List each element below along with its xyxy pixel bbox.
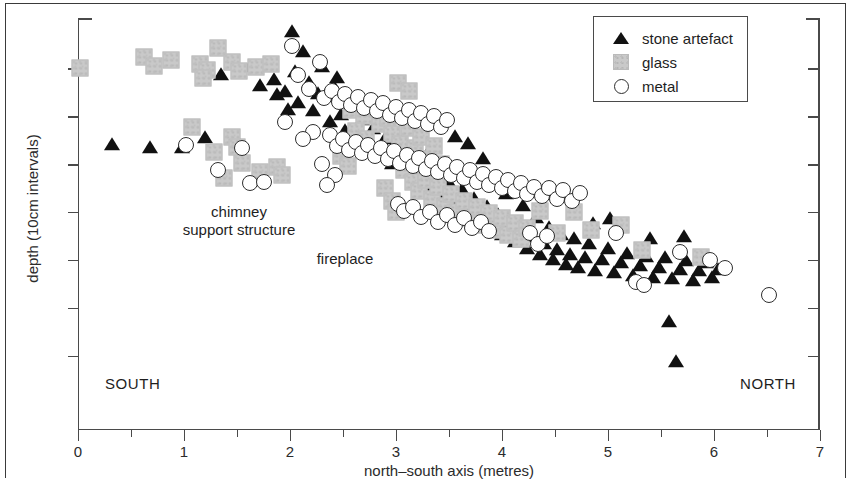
x-axis-tick [714,430,715,441]
metal-point [702,252,718,268]
y-axis-tick [68,212,79,213]
legend-label-metal: metal [642,78,679,95]
circle-marker-icon [611,79,631,94]
right-axis-tick [808,68,819,69]
annotation-chimney-support-structure: chimney support structure [183,203,296,238]
figure-container: 01234567 chimney support structure firep… [0,0,851,487]
axis-top-left-stub [78,18,92,20]
right-axis-tick [808,116,819,117]
x-axis-minor-tick [131,430,132,437]
metal-point [301,81,317,97]
x-axis-tick [78,430,79,441]
stone-artefact-point [329,70,345,83]
metal-point [256,174,272,190]
glass-point [262,55,279,72]
right-axis-tick [808,308,819,309]
stone-artefact-point [104,137,120,150]
annotation-fireplace: fireplace [317,250,374,268]
stone-artefact-point [305,104,321,117]
metal-point [312,54,328,70]
stone-artefact-point [661,314,677,327]
legend-item-stone-artefact: stone artefact [594,26,747,50]
right-axis-tick [808,212,819,213]
x-axis-tick-label: 0 [74,443,82,460]
stone-artefact-point [600,241,616,254]
stone-artefact-point [475,152,491,165]
y-axis-label: depth (10cm intervals) [24,59,41,359]
y-axis-tick [68,116,79,117]
x-axis-tick-label: 6 [710,443,718,460]
metal-point [295,131,311,147]
metal-point [210,162,226,178]
x-axis-tick [608,430,609,441]
x-axis-minor-tick [237,430,238,437]
x-axis-tick [820,430,821,441]
south-direction-label: SOUTH [105,375,161,392]
axis-right-spine [818,18,820,430]
glass-point [400,82,417,99]
x-axis-tick [184,430,185,441]
x-axis-tick [396,430,397,441]
glass-point [72,60,89,77]
right-axis-tick [808,356,819,357]
stone-artefact-point [657,251,673,264]
glass-point [184,119,201,136]
x-axis-label: north–south axis (metres) [78,462,820,479]
annotation-chimney-line2: support structure [183,221,296,239]
legend-box: stone artefact glass metal [593,16,748,102]
metal-point [439,112,455,128]
legend-item-glass: glass [594,50,747,74]
glass-point [340,157,357,174]
x-axis-tick-label: 4 [498,443,506,460]
y-axis-tick [68,308,79,309]
metal-point [572,185,588,201]
y-axis-tick [68,260,79,261]
glass-point [205,144,222,161]
glass-point [146,57,163,74]
stone-artefact-point [284,25,300,38]
metal-point [481,223,497,239]
x-axis-minor-tick [767,430,768,437]
metal-point [284,38,300,54]
metal-point [636,277,652,293]
glass-point [234,154,251,171]
metal-point [319,177,335,193]
stone-artefact-point [577,251,593,264]
north-direction-label: NORTH [740,375,796,392]
metal-point [717,260,733,276]
x-axis-tick-label: 3 [392,443,400,460]
stone-artefact-point [566,232,582,245]
y-axis-tick [68,356,79,357]
annotation-chimney-line1: chimney [183,203,296,221]
x-axis-minor-tick [555,430,556,437]
x-axis-minor-tick [449,430,450,437]
x-axis-tick-label: 5 [604,443,612,460]
triangle-marker-icon [611,32,631,44]
metal-point [178,137,194,153]
stone-artefact-point [562,247,578,260]
stone-artefact-point [668,354,684,367]
glass-point [231,62,248,79]
metal-point [234,140,250,156]
stone-artefact-point [460,136,476,149]
right-axis-tick [808,164,819,165]
x-axis-tick [290,430,291,441]
glass-point [195,69,212,86]
legend-label-glass: glass [642,54,677,71]
square-marker-icon [611,54,631,70]
stone-artefact-point [676,230,692,243]
x-axis-tick [502,430,503,441]
glass-point [532,202,549,219]
x-axis-tick-label: 1 [180,443,188,460]
x-axis-minor-tick [343,430,344,437]
x-axis-minor-tick [661,430,662,437]
metal-point [277,114,293,130]
metal-point [672,244,688,260]
legend-item-metal: metal [594,74,747,98]
figure-bottom-margin [0,478,851,487]
metal-point [539,228,555,244]
stone-artefact-point [581,236,597,249]
y-axis-tick [68,164,79,165]
metal-point [761,287,777,303]
glass-point [583,221,600,238]
